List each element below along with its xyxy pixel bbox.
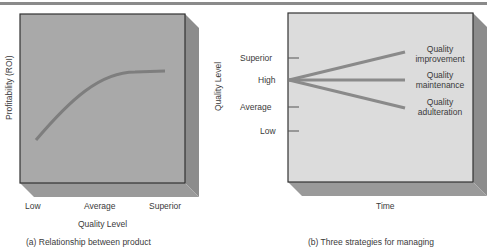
panel-b-ytick-high: High [258, 75, 275, 85]
panel-b-side [473, 13, 487, 196]
panel-a-caption: (a) Relationship between product [26, 237, 151, 247]
panel-a-xtick-superior: Superior [149, 201, 181, 211]
series-label-line2: adulteration [410, 107, 470, 117]
panel-b-ylabel: Quality Level [213, 62, 223, 111]
panel-a-xlabel: Quality Level [78, 219, 127, 229]
panel-a-ylabel: Profitability (ROI) [4, 55, 14, 120]
panel-a-xtick-low: Low [25, 201, 41, 211]
panel-b-ytick-average: Average [240, 102, 272, 112]
panel-b-caption: (b) Three strategies for managing [308, 237, 434, 247]
diagram-graphics [0, 0, 487, 247]
panel-a-face [20, 14, 185, 183]
panel-a-xtick-average: Average [84, 201, 116, 211]
series-label-maintenance: Quality maintenance [410, 70, 470, 90]
series-label-line1: Quality [410, 70, 470, 80]
series-label-improvement: Quality improvement [410, 44, 470, 64]
series-label-line1: Quality [410, 97, 470, 107]
panel-b-ytick-superior: Superior [240, 53, 272, 63]
series-label-line2: improvement [410, 54, 470, 64]
panel-a-side [185, 14, 199, 197]
panel-a-bottom [20, 183, 199, 197]
series-label-line2: maintenance [410, 80, 470, 90]
panel-b-xlabel: Time [376, 201, 395, 211]
series-label-adulteration: Quality adulteration [410, 97, 470, 117]
panel-b-ytick-low: Low [260, 126, 276, 136]
panel-b-bottom [288, 182, 487, 196]
series-label-line1: Quality [410, 44, 470, 54]
